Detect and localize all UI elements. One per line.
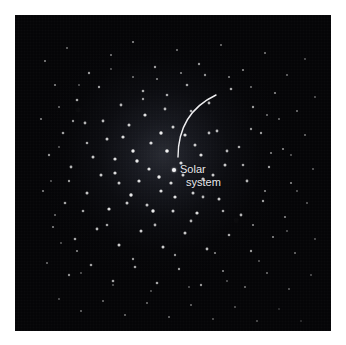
- trajectory-arc-icon: [178, 95, 216, 157]
- star-field-figure: Solar system: [0, 0, 346, 345]
- overlay-layer: [15, 15, 331, 331]
- star-field-plate: Solar system: [15, 15, 331, 331]
